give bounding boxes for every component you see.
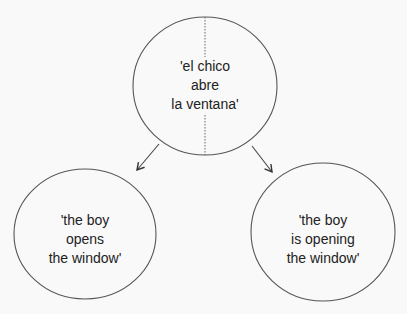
label-line: the window' — [268, 249, 378, 268]
label-line: 'el chico — [155, 57, 255, 76]
left-node-label: 'the boy opens the window' — [35, 211, 135, 268]
label-line: 'the boy — [268, 211, 378, 230]
arrow-to-left — [137, 144, 159, 170]
right-node-label: 'the boy is opening the window' — [268, 211, 378, 268]
arrow-to-right — [252, 146, 272, 172]
label-line: abre — [155, 76, 255, 95]
top-node-label: 'el chico abre la ventana' — [155, 57, 255, 114]
label-line: la ventana' — [155, 95, 255, 114]
label-line: is opening — [268, 230, 378, 249]
label-line: the window' — [35, 249, 135, 268]
label-line: opens — [35, 230, 135, 249]
label-line: 'the boy — [35, 211, 135, 230]
